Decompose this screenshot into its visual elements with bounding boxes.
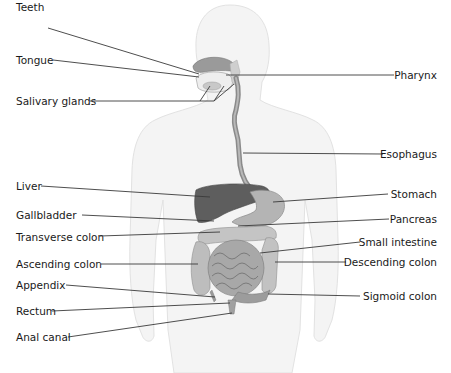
label-sigmoid-colon: Sigmoid colon [363,290,437,302]
digestive-system-diagram: Teeth Tongue Salivary glands Liver Gallb… [0,0,451,373]
label-teeth: Teeth [16,1,44,13]
label-anal-canal: Anal canal [16,331,71,343]
small-intestine-shape [208,240,264,296]
label-rectum: Rectum [16,305,56,317]
label-ascending-colon: Ascending colon [16,258,102,270]
label-esophagus: Esophagus [380,148,437,160]
descending-colon-shape [262,238,278,294]
label-pharynx: Pharynx [394,69,437,81]
label-descending-colon: Descending colon [344,256,437,268]
label-gallbladder: Gallbladder [16,209,77,221]
body-illustration [0,0,451,373]
label-tongue: Tongue [16,54,54,66]
label-appendix: Appendix [16,279,65,291]
label-liver: Liver [16,180,42,192]
label-pancreas: Pancreas [390,213,437,225]
label-transverse-colon: Transverse colon [16,231,104,243]
label-stomach: Stomach [391,188,437,200]
label-salivary-glands: Salivary glands [16,95,96,107]
label-small-intestine: Small intestine [359,236,437,248]
ascending-colon-shape [191,242,210,295]
